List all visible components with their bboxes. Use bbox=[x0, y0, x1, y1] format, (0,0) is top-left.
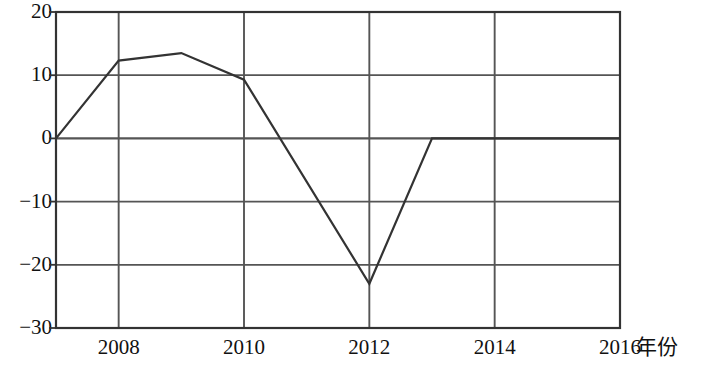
plot-border bbox=[56, 12, 620, 328]
x-tick-label: 2010 bbox=[199, 336, 289, 358]
x-tick-label: 2012 bbox=[324, 336, 414, 358]
grid-lines bbox=[56, 12, 620, 328]
x-tick-label: 2014 bbox=[450, 336, 540, 358]
data-line-path bbox=[56, 53, 620, 284]
line-chart: 20100−10−20−30 20082010201220142016 年份 bbox=[0, 0, 710, 369]
data-series-line bbox=[56, 53, 620, 284]
x-tick-label: 2008 bbox=[74, 336, 164, 358]
plot-area bbox=[0, 0, 710, 369]
x-axis-title: 年份 bbox=[636, 336, 678, 358]
